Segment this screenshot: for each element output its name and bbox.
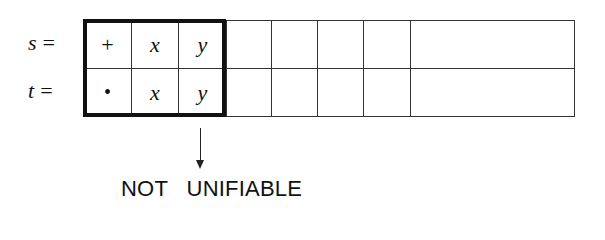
cell-s-1: x [131,20,179,69]
equals-sign: = [43,30,55,55]
cell-s-5 [317,20,364,69]
cell-t-2: y [178,68,227,117]
cell-s-0: + [83,20,132,69]
cell-s-7 [410,20,575,69]
cell-t-3 [226,68,272,117]
row-label-s: s= [28,30,74,56]
arrowhead-icon [196,160,204,169]
cell-s-3 [226,20,272,69]
result-text: NOT UNIFIABLE [121,176,302,202]
cell-t-4 [271,68,318,117]
cell-t-7 [410,68,575,117]
cell-t-6 [363,68,411,117]
cell-t-0: • [83,68,132,117]
down-arrow-icon [200,128,201,162]
label-var: s [28,30,37,55]
cell-s-4 [271,20,318,69]
label-var: t [28,78,34,103]
equals-sign: = [40,78,52,103]
cell-s-6 [363,20,411,69]
row-label-t: t= [28,78,74,104]
cell-t-1: x [131,68,179,117]
cell-s-2: y [178,20,227,69]
cell-t-5 [317,68,364,117]
